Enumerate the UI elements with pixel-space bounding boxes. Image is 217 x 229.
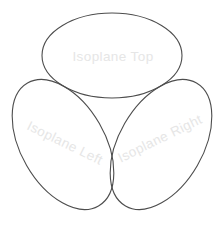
isoplane-diagram-svg: Isoplane Top Isoplane Left Isoplane Righ…	[0, 0, 217, 229]
diagram-background	[0, 0, 217, 229]
isoplane-diagram: Isoplane Top Isoplane Left Isoplane Righ…	[0, 0, 217, 229]
isoplane-top-label: Isoplane Top	[72, 49, 153, 64]
